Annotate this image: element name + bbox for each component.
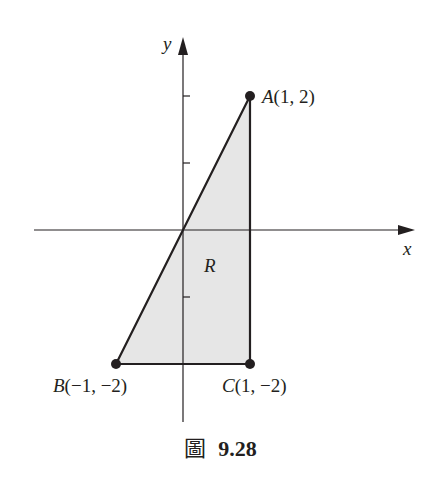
vertex-c-label: C(1, −2): [222, 375, 287, 397]
vertex-c-point: [245, 359, 255, 369]
vertex-a-point: [245, 91, 255, 101]
y-axis-label: y: [161, 33, 172, 54]
figure-caption: 圖9.28: [0, 430, 441, 462]
x-axis-label: x: [402, 238, 412, 259]
caption-prefix: 圖: [184, 436, 206, 461]
diagram-canvas: x y R A(1, 2) B(−1, −2) C(1, −2): [0, 0, 441, 488]
vertex-b-label: B(−1, −2): [53, 375, 127, 397]
vertex-a-label: A(1, 2): [260, 86, 315, 108]
caption-number: 9.28: [218, 436, 257, 461]
x-axis-arrow-icon: [398, 225, 415, 235]
y-axis-arrow-icon: [178, 37, 188, 55]
region-label: R: [203, 255, 216, 276]
vertex-b-point: [111, 359, 121, 369]
